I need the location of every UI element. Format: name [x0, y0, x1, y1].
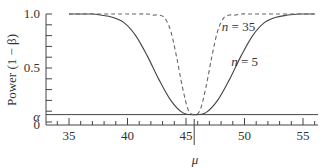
x-tick-label: 40: [121, 128, 134, 143]
x-tick-label: 50: [238, 128, 251, 143]
series-annotation: n = 5: [231, 54, 258, 69]
x-tick-label: 35: [63, 128, 76, 143]
y-axis: 1.00.5α0: [24, 6, 52, 132]
x-tick-label: 45: [180, 128, 193, 143]
annotations: n = 35n = 5: [222, 19, 258, 69]
x-axis-title: μ: [191, 152, 199, 167]
y-axis-title: Power (1 − β): [4, 34, 19, 106]
y-tick-label: 0: [34, 117, 41, 132]
y-tick-label: 1.0: [24, 6, 40, 21]
power-curve-chart: 1.00.5α0 3540455055 n = 35n = 5 Power (1…: [0, 0, 332, 168]
x-axis: 3540455055: [46, 118, 318, 145]
x-tick-label: 55: [297, 128, 310, 143]
y-tick-label: 0.5: [24, 60, 40, 75]
series-n-5: [69, 14, 315, 115]
series-annotation: n = 35: [222, 19, 255, 34]
plot-series: [69, 14, 315, 115]
series-n-35: [69, 14, 315, 115]
